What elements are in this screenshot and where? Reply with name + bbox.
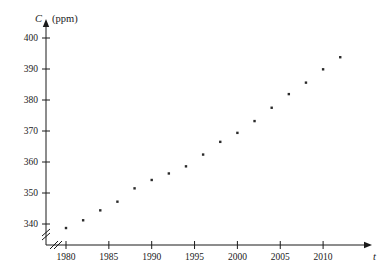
data-point-1998: [219, 141, 221, 143]
y-axis-unit-label: (ppm): [52, 13, 78, 25]
data-point-1994: [185, 165, 187, 167]
y-tick-label-350: 350: [24, 188, 39, 198]
data-point-1984: [99, 209, 101, 211]
x-axis-title: t: [373, 251, 377, 262]
x-tick-label-2010: 2010: [314, 252, 333, 262]
x-tick-label-2005: 2005: [271, 252, 290, 262]
data-point-2002: [253, 120, 255, 122]
y-tick-label-400: 400: [24, 33, 39, 43]
axis-labels-group: 3403503603703803904001980198519901995200…: [24, 13, 377, 262]
data-point-1982: [82, 219, 84, 221]
data-point-2006: [288, 93, 290, 95]
y-axis-title: C: [35, 13, 43, 24]
data-point-1990: [151, 179, 153, 181]
y-axis-arrow-icon: [43, 19, 49, 27]
chart-canvas: 3403503603703803904001980198519901995200…: [0, 0, 387, 277]
data-point-1986: [116, 200, 118, 202]
ticks-group: [42, 38, 323, 249]
x-tick-label-1995: 1995: [185, 252, 204, 262]
data-point-2000: [236, 132, 238, 134]
x-tick-label-1980: 1980: [57, 252, 76, 262]
y-tick-label-370: 370: [24, 126, 39, 136]
y-tick-label-390: 390: [24, 64, 39, 74]
data-points-group: [65, 56, 342, 229]
x-tick-label-1990: 1990: [142, 252, 161, 262]
y-tick-label-340: 340: [24, 219, 39, 229]
data-point-1980: [65, 227, 67, 229]
x-tick-label-1985: 1985: [99, 252, 118, 262]
co2-scatter-plot: 3403503603703803904001980198519901995200…: [0, 0, 387, 277]
x-axis-arrow-icon: [364, 242, 372, 248]
y-tick-label-360: 360: [24, 157, 39, 167]
x-tick-label-2000: 2000: [228, 252, 247, 262]
data-point-2012: [339, 56, 341, 58]
data-point-1988: [133, 187, 135, 189]
data-point-2010: [322, 68, 324, 70]
data-point-2004: [270, 107, 272, 109]
y-tick-label-380: 380: [24, 95, 39, 105]
data-point-2008: [305, 81, 307, 83]
axes-group: [42, 19, 372, 249]
data-point-1992: [168, 172, 170, 174]
data-point-1996: [202, 153, 204, 155]
